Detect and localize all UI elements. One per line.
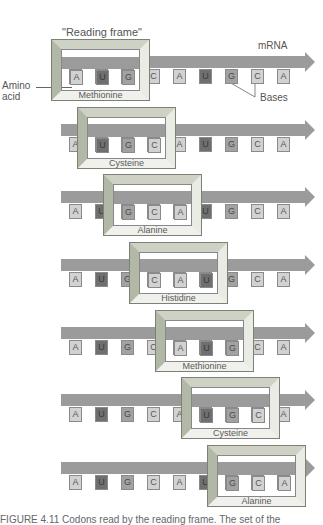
frame-window: GCA [113, 184, 192, 226]
codon-base: U [200, 341, 213, 356]
base: U [95, 407, 108, 422]
codon-row: AUGCAUGCAGCAAlanine [0, 446, 323, 512]
base: A [277, 69, 290, 84]
frame-window: AUG [61, 49, 140, 91]
mrna-strand-in-frame [218, 463, 295, 475]
base: A [277, 340, 290, 355]
codon-base: C [148, 205, 161, 220]
base: A [173, 69, 186, 84]
codon-base: G [122, 138, 135, 153]
base: A [69, 340, 82, 355]
frame-window: UGC [191, 387, 270, 429]
base: G [225, 137, 238, 152]
codon-base: U [96, 70, 109, 85]
amino-acid-name: Methionine [61, 91, 140, 100]
base: C [251, 204, 264, 219]
codon-row: AUGCAUGCAAUGMethionine [0, 40, 323, 106]
mrna-strand-in-frame [192, 395, 269, 407]
base: A [69, 272, 82, 287]
base: G [121, 475, 134, 490]
amino-acid-name: Histidine [139, 294, 218, 303]
codon-base: U [200, 273, 213, 288]
mrna-strand-in-frame [114, 192, 191, 204]
base: A [277, 272, 290, 287]
frame-window: AUG [165, 320, 244, 362]
base: U [95, 340, 108, 355]
amino-acid-name: Alanine [113, 226, 192, 235]
mrna-strand-in-frame [166, 328, 243, 340]
codon-base: A [174, 273, 187, 288]
base: U [199, 69, 212, 84]
codon-base: C [252, 476, 265, 491]
reading-frame-box: AUGMethionine [156, 311, 253, 371]
codon-base: A [70, 70, 83, 85]
mrna-strand [145, 56, 305, 68]
amino-acid-name: Cysteine [191, 429, 270, 438]
base: G [121, 407, 134, 422]
base: C [251, 69, 264, 84]
arrow-head-icon [305, 323, 315, 343]
base: A [277, 137, 290, 152]
frame-window: CAU [139, 252, 218, 294]
codon-base: G [122, 70, 135, 85]
codon-row: AUGCAUGCAGCAAlanine [0, 175, 323, 241]
reading-frame-box: CAUHistidine [130, 243, 227, 303]
codon-base: A [174, 205, 187, 220]
figure-caption: FIGURE 4.11 Codons read by the reading f… [0, 514, 280, 525]
mrna-strand-in-frame [140, 260, 217, 272]
base: A [69, 204, 82, 219]
arrow-head-icon [305, 52, 315, 72]
base: A [69, 475, 82, 490]
amino-acid-name: Cysteine [87, 159, 166, 168]
arrow-head-icon [305, 255, 315, 275]
codon-base: A [174, 341, 187, 356]
arrow-head-icon [305, 187, 315, 207]
codon-base: C [148, 138, 161, 153]
arrow-head-icon [305, 390, 315, 410]
codon-base: A [278, 476, 291, 491]
codon-base: G [226, 341, 239, 356]
reading-frame-box: UGCCysteine [182, 378, 279, 438]
reading-frame-label: "Reading frame" [62, 26, 142, 38]
base: C [147, 475, 160, 490]
codon-base: U [96, 138, 109, 153]
frame-window: UGC [87, 117, 166, 159]
amino-acid-name: Methionine [165, 362, 244, 371]
codon-row: AUGCAUGCAUGCCysteine [0, 108, 323, 174]
base: A [277, 204, 290, 219]
base: A [173, 475, 186, 490]
codon-base: C [148, 273, 161, 288]
reading-frame-box: AUGMethionine [52, 40, 149, 100]
reading-frame-box: GCAAlanine [104, 175, 201, 235]
base: G [225, 204, 238, 219]
codon-base: G [226, 408, 239, 423]
codon-base: G [122, 205, 135, 220]
amino-acid-name: Alanine [217, 497, 296, 506]
mrna-strand-in-frame [62, 57, 139, 69]
codon-row: AUGCAUGCAAUGMethionine [0, 311, 323, 377]
mrna-strand-in-frame [88, 125, 165, 137]
reading-frame-box: GCAAlanine [208, 446, 305, 506]
base: C [251, 272, 264, 287]
base: U [95, 272, 108, 287]
base: G [225, 69, 238, 84]
codon-row: AUGCAUGCACAUHistidine [0, 243, 323, 309]
base: G [121, 340, 134, 355]
base: C [251, 137, 264, 152]
arrow-head-icon [305, 120, 315, 140]
base: U [199, 137, 212, 152]
reading-frame-box: UGCCysteine [78, 108, 175, 168]
base: U [95, 475, 108, 490]
base: A [69, 407, 82, 422]
codon-row: AUGCAUGCAUGCCysteine [0, 378, 323, 444]
arrow-head-icon [305, 458, 315, 478]
codon-base: G [226, 476, 239, 491]
codon-base: U [200, 408, 213, 423]
frame-window: GCA [217, 455, 296, 497]
base: C [147, 407, 160, 422]
codon-base: C [252, 408, 265, 423]
